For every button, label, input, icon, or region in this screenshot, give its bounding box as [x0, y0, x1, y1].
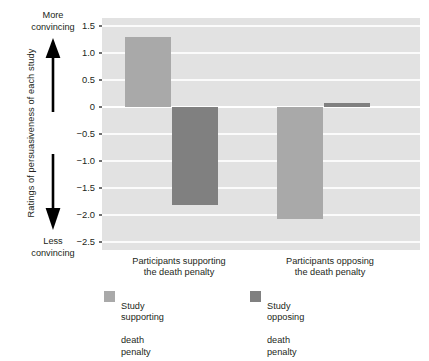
gridline	[102, 25, 420, 26]
y-axis-tick-label: −0.5	[57, 128, 95, 139]
y-axis-tick-label: −1.5	[57, 182, 95, 193]
y-axis-tick-label: −2.0	[57, 209, 95, 220]
legend-swatch-study-supporting	[104, 291, 115, 302]
gridline	[102, 160, 420, 161]
x-category-opposing-line1: Participants opposing	[255, 256, 405, 267]
bar	[172, 107, 218, 205]
y-axis-tick-label: 0.5	[57, 74, 95, 85]
less-convincing-line2: convincing	[22, 248, 84, 260]
y-axis-tick-label: 1.0	[57, 47, 95, 58]
x-category-supporting-line1: Participants supporting	[104, 256, 254, 267]
x-category-supporting-line2: the death penalty	[104, 267, 254, 278]
y-axis-tick-label: 0	[57, 101, 95, 112]
legend-opposing-line1: Study opposing	[267, 301, 304, 324]
bar	[125, 37, 171, 107]
x-category-label-opposing: Participants opposing the death penalty	[255, 256, 405, 279]
y-axis-tick-label: −1.0	[57, 155, 95, 166]
gridline	[102, 214, 420, 215]
legend-supporting-line2: death penalty	[121, 335, 164, 358]
bar	[277, 107, 323, 219]
x-category-opposing-line2: the death penalty	[255, 267, 405, 278]
y-axis-tick-label: 1.5	[57, 20, 95, 31]
gridline	[102, 187, 420, 188]
bar	[324, 103, 370, 107]
gridline	[102, 241, 420, 242]
legend-label-study-supporting: Study supporting death penalty	[121, 289, 164, 361]
y-axis-tick-label: −2.5	[57, 236, 95, 247]
legend-supporting-line1: Study supporting	[121, 301, 164, 324]
x-category-label-supporting: Participants supporting the death penalt…	[104, 256, 254, 279]
legend-swatch-study-opposing	[250, 291, 261, 302]
gridline	[102, 133, 420, 134]
legend-opposing-line2: death penalty	[267, 335, 304, 358]
chart-legend: Study supporting death penalty Study opp…	[104, 290, 404, 318]
plot-area	[102, 18, 420, 250]
legend-label-study-opposing: Study opposing death penalty	[267, 289, 304, 361]
